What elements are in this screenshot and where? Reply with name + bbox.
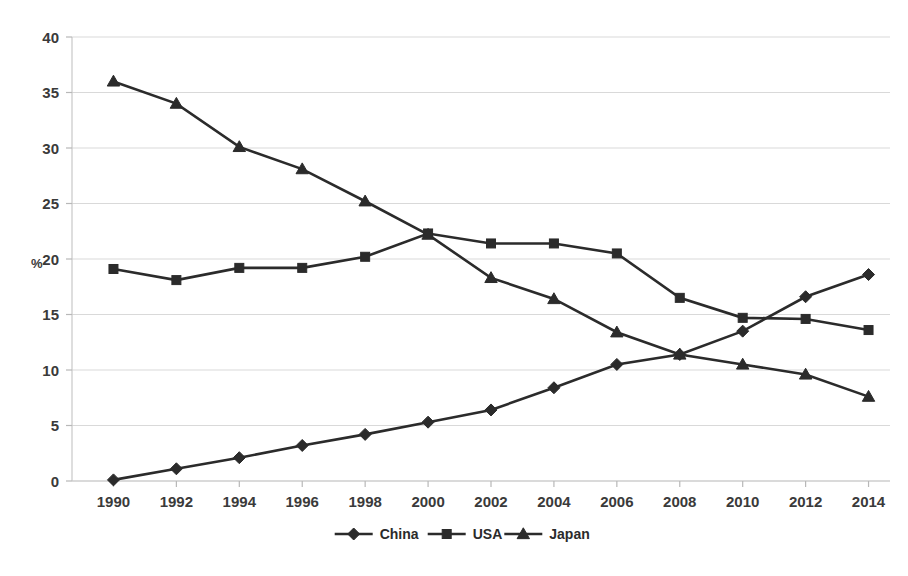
y-axis-tick-label: 40 bbox=[42, 29, 59, 46]
x-axis-tick-label: 2012 bbox=[789, 493, 822, 510]
data-point-marker-square bbox=[738, 313, 747, 322]
chart-canvas: 0510152025303540 19901992199419961998200… bbox=[0, 0, 908, 576]
data-point-marker-diamond bbox=[170, 463, 182, 475]
data-point-marker-square bbox=[172, 276, 181, 285]
series-japan bbox=[107, 75, 874, 401]
x-axis-tick-label: 2014 bbox=[852, 493, 886, 510]
data-point-marker-diamond bbox=[422, 416, 434, 428]
x-axis-tick-label: 2004 bbox=[537, 493, 571, 510]
x-axis-tick-label: 1990 bbox=[97, 493, 130, 510]
x-axis-tick-label: 1992 bbox=[160, 493, 193, 510]
data-point-marker-diamond bbox=[348, 528, 360, 540]
data-point-marker-square bbox=[487, 239, 496, 248]
axes bbox=[66, 37, 890, 487]
x-axis-tick-labels: 1990199219941996199820002002200420062008… bbox=[97, 493, 886, 510]
data-point-marker-square bbox=[235, 263, 244, 272]
series-line bbox=[113, 275, 868, 480]
data-point-marker-square bbox=[864, 326, 873, 335]
legend-label: Japan bbox=[549, 526, 589, 542]
data-point-marker-square bbox=[549, 239, 558, 248]
data-point-marker-diamond bbox=[233, 452, 245, 464]
legend-item-usa[interactable]: USA bbox=[428, 526, 503, 542]
x-axis-tick-label: 2008 bbox=[663, 493, 696, 510]
data-point-marker-diamond bbox=[548, 382, 560, 394]
y-axis-tick-label: 35 bbox=[42, 84, 59, 101]
data-point-marker-square bbox=[361, 252, 370, 261]
y-axis-tick-label: 25 bbox=[42, 195, 59, 212]
series-china bbox=[107, 269, 874, 486]
y-axis-unit-label: % bbox=[31, 256, 43, 271]
y-axis-tick-label: 30 bbox=[42, 140, 59, 157]
data-point-marker-square bbox=[298, 263, 307, 272]
x-axis-tick-label: 2000 bbox=[411, 493, 444, 510]
data-point-marker-diamond bbox=[359, 428, 371, 440]
data-point-marker-square bbox=[109, 264, 118, 273]
y-axis-tick-label: 20 bbox=[42, 251, 59, 268]
data-point-marker-diamond bbox=[863, 269, 875, 281]
legend-label: China bbox=[380, 526, 419, 542]
data-point-marker-square bbox=[612, 249, 621, 258]
legend-label: USA bbox=[473, 526, 503, 542]
data-point-marker-square bbox=[675, 293, 684, 302]
data-series bbox=[107, 75, 874, 486]
x-axis-tick-label: 2006 bbox=[600, 493, 633, 510]
x-axis-tick-label: 1996 bbox=[286, 493, 319, 510]
x-axis-tick-label: 2010 bbox=[726, 493, 759, 510]
data-point-marker-triangle bbox=[485, 272, 497, 283]
line-chart: 0510152025303540 19901992199419961998200… bbox=[0, 0, 908, 576]
chart-legend: ChinaUSAJapan bbox=[335, 526, 590, 542]
y-axis-tick-label: 15 bbox=[42, 306, 59, 323]
data-point-marker-triangle bbox=[611, 326, 623, 337]
data-point-marker-diamond bbox=[485, 404, 497, 416]
y-axis-tick-labels: 0510152025303540 bbox=[42, 29, 59, 490]
data-point-marker-square bbox=[442, 530, 451, 539]
y-axis-tick-label: 5 bbox=[51, 417, 59, 434]
data-point-marker-diamond bbox=[800, 291, 812, 303]
data-point-marker-diamond bbox=[737, 325, 749, 337]
x-axis-tick-label: 2002 bbox=[474, 493, 507, 510]
data-point-marker-diamond bbox=[611, 358, 623, 370]
legend-item-china[interactable]: China bbox=[335, 526, 419, 542]
y-axis-tick-label: 0 bbox=[51, 473, 59, 490]
legend-item-japan[interactable]: Japan bbox=[504, 526, 589, 542]
grid-lines bbox=[72, 37, 890, 481]
data-point-marker-diamond bbox=[107, 474, 119, 486]
x-axis-tick-label: 1998 bbox=[348, 493, 381, 510]
data-point-marker-triangle bbox=[107, 75, 119, 86]
data-point-marker-triangle bbox=[233, 141, 245, 152]
x-axis-tick-label: 1994 bbox=[223, 493, 257, 510]
data-point-marker-square bbox=[801, 314, 810, 323]
data-point-marker-diamond bbox=[296, 439, 308, 451]
y-axis-tick-label: 10 bbox=[42, 362, 59, 379]
